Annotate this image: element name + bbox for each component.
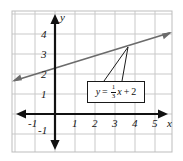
y-tick-label-2: 2 [41,69,47,80]
equation-variable: x [117,87,121,97]
fraction-numerator: 1 [111,84,117,91]
y-tick-label-neg1: -1 [38,125,47,136]
x-tick-label-5: 5 [152,118,158,129]
x-tick-label-4: 4 [132,118,138,129]
equation-fraction: 1 3 [111,84,117,100]
x-tick-label-1: 1 [72,118,78,129]
graph-figure: 4 3 2 1 -1 -1 1 2 3 4 5 x y y = 1 3 x + … [0,0,183,161]
equation-lhs: y [96,87,100,97]
equation-text: y = 1 3 x + 2 [96,84,137,100]
x-tick-label-3: 3 [112,118,118,129]
x-axis-name: x [167,118,172,129]
equation-equals: = [102,87,108,97]
x-tick-label-2: 2 [92,118,98,129]
equation-constant: 2 [131,87,136,97]
y-axis-name: y [60,12,65,23]
equation-plus: + [124,87,130,97]
y-tick-label-1: 1 [41,89,47,100]
y-tick-label-3: 3 [41,49,47,60]
x-tick-label-neg1: -1 [28,118,37,129]
fraction-denominator: 3 [111,92,117,100]
equation-callout-box: y = 1 3 x + 2 [87,81,145,103]
y-tick-label-4: 4 [41,29,47,40]
